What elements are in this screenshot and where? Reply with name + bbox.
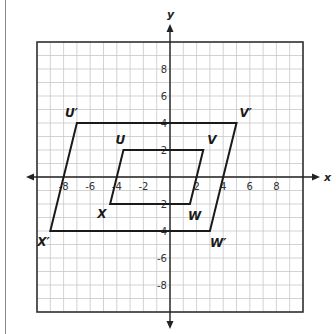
x-tick-label: 6 [247, 181, 253, 192]
y-axis-down-arrow-icon [167, 321, 174, 329]
y-tick-label: -6 [157, 253, 167, 264]
y-tick-label: -8 [157, 280, 167, 291]
x-tick-label: 8 [273, 181, 279, 192]
x-tick-label: -6 [85, 181, 95, 192]
y-tick-label: 8 [161, 64, 167, 75]
x-axis-left-arrow-icon [26, 174, 34, 181]
vertex-label: U [115, 133, 125, 147]
x-tick-label: -2 [138, 181, 148, 192]
y-axis-up-arrow-icon [167, 24, 174, 32]
vertex-label: W′ [210, 236, 227, 250]
coordinate-plane: xy-8-6-4-22468864224-6-8UVWXU′V′W′X′ [0, 0, 336, 334]
y-tick-label: 6 [161, 91, 167, 102]
y-axis-label: y [167, 8, 175, 21]
x-axis-right-arrow-icon [312, 174, 320, 181]
vertex-label: X′ [36, 235, 50, 249]
vertex-label: V′ [240, 106, 253, 120]
vertex-label: U′ [65, 106, 79, 120]
vertex-label: V [207, 133, 218, 147]
vertex-label: X [96, 207, 107, 221]
x-axis-label: x [323, 171, 332, 184]
vertex-label: W [188, 209, 202, 223]
